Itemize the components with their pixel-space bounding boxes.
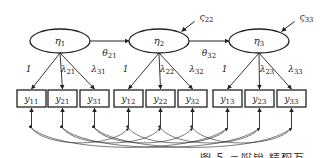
covariance-arc: [63, 128, 161, 143]
caption-text: 图 5 三阶段 结构方程模型图: [200, 153, 315, 158]
loading-y11: 1: [26, 53, 60, 89]
loading-label: λ22: [159, 64, 175, 76]
disturbance-eta3: ς33: [282, 12, 314, 31]
loading-y23: λ23: [259, 53, 275, 89]
latent-eta1: η1: [30, 29, 90, 53]
loading-label: λ21: [60, 64, 76, 76]
indicator-y21: y21: [48, 90, 77, 107]
loading-label: λ32: [188, 64, 204, 76]
covariance-arc: [95, 128, 292, 147]
covariance-arc: [161, 128, 260, 143]
covariance-arc: [95, 128, 193, 143]
loading-label: λ33: [287, 64, 303, 76]
disturbance-eta2: ς22: [182, 12, 214, 31]
loading-label: λ31: [90, 64, 106, 76]
path-eta1-eta2: θ21: [90, 41, 129, 60]
disturbance-label: ς22: [200, 12, 214, 24]
path-coefficient: θ32: [202, 48, 216, 60]
indicator-y22: y22: [146, 90, 175, 107]
loading-y22: λ22: [159, 53, 175, 89]
indicator-y23: y23: [245, 90, 274, 107]
indicator-y13: y13: [213, 90, 242, 107]
error-arrows: [32, 108, 292, 128]
disturbance-label: ς33: [300, 12, 314, 24]
loading-arrows: 1λ21λ311λ22λ321λ23λ33: [26, 53, 303, 89]
latent-variables: η1η2η3: [30, 29, 289, 53]
latent-eta2: η2: [129, 29, 189, 53]
indicator-y12: y12: [114, 90, 143, 107]
figure-caption-fragment: 图 5 三阶段 结构方程模型图: [200, 153, 315, 158]
loading-y12: 1: [123, 53, 159, 89]
sem-diagram: 1λ21λ311λ22λ321λ23λ33 θ21θ32 ς22ς33 η1η2…: [0, 0, 330, 158]
covariance-arc: [32, 128, 228, 147]
error-covariance-arcs: [32, 128, 292, 147]
indicator-boxes: y11y21y31y12y22y32y13y23y33: [17, 90, 306, 107]
covariance-arc: [32, 128, 129, 143]
latent-eta3: η3: [229, 29, 289, 53]
loading-label: 1: [26, 64, 32, 74]
disturbance-arrows: ς22ς33: [182, 12, 314, 31]
loading-y13: 1: [222, 53, 259, 89]
indicator-y33: y33: [277, 90, 306, 107]
indicator-y32: y32: [178, 90, 207, 107]
loading-label: 1: [222, 64, 228, 74]
loading-label: 1: [123, 64, 129, 74]
path-coefficient: θ21: [102, 48, 116, 60]
covariance-arc: [193, 128, 292, 143]
covariance-arc: [63, 128, 260, 147]
loading-y21: λ21: [60, 53, 76, 89]
path-eta2-eta3: θ32: [189, 41, 229, 60]
loading-label: λ23: [259, 64, 275, 76]
indicator-y31: y31: [80, 90, 109, 107]
indicator-y11: y11: [17, 90, 46, 107]
covariance-arc: [129, 128, 228, 143]
